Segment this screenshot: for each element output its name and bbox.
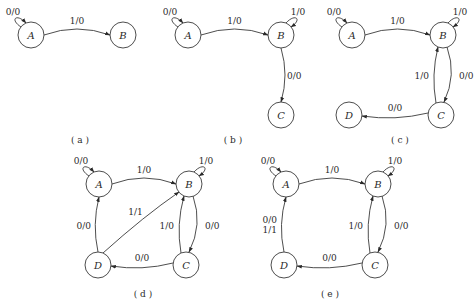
diagram-caption: ( e )	[321, 289, 339, 299]
transition-c-d-arrow	[362, 113, 428, 118]
transition-a-a-label: 0/0	[163, 7, 178, 17]
transition-a-b-arrow	[112, 178, 176, 184]
diagram-caption: ( c )	[391, 135, 409, 145]
transition-d-a-arrow	[95, 197, 99, 252]
transition-a-b-arrow	[365, 29, 430, 35]
transition-b-c-label: 0/0	[459, 71, 474, 81]
transition-b-c-arrow	[189, 196, 197, 252]
transition-b-c-arrow	[378, 196, 386, 252]
state-c-label: C	[437, 110, 445, 121]
transition-a-a-label: 0/0	[261, 156, 276, 166]
state-b-label: B	[118, 30, 126, 41]
transition-a-a-label: 0/0	[6, 7, 21, 17]
state-a-label: A	[94, 179, 102, 190]
transition-a-b-label: 1/0	[70, 16, 85, 26]
transition-d-a-arrow	[281, 197, 286, 252]
transition-c-b-arrow	[434, 47, 438, 103]
diagram-b: 0/01/01/00/0ABC( b )	[163, 7, 306, 145]
transition-c-d-label: 0/0	[322, 253, 337, 263]
transition-b-b-label: 1/0	[199, 156, 214, 166]
transition-a-b-arrow	[44, 29, 110, 35]
transition-b-c-arrow	[444, 47, 451, 102]
state-a-label: A	[347, 30, 355, 41]
transition-b-c-label: 0/0	[287, 71, 302, 81]
transition-a-a-label: 0/0	[327, 7, 342, 17]
state-c-label: C	[182, 260, 190, 271]
transition-c-b-label: 1/0	[349, 221, 364, 231]
transition-b-b-label: 1/0	[453, 7, 468, 17]
state-c-label: C	[371, 260, 379, 271]
transition-b-c-arrow	[281, 48, 285, 102]
transition-c-d-label: 0/0	[135, 253, 150, 263]
transition-a-b-label: 1/0	[325, 165, 340, 175]
transition-b-c-label: 0/0	[205, 221, 220, 231]
transition-a-b-label: 1/0	[227, 16, 242, 26]
diagram-caption: ( b )	[224, 135, 243, 145]
diagram-e: 0/01/01/00/01/00/00/01/1ABCD( e )	[261, 156, 409, 299]
diagram-caption: ( d )	[134, 289, 153, 299]
transition-d-b-label: 1/1	[128, 207, 142, 217]
state-b-label: B	[373, 179, 381, 190]
diagram-d: 0/01/01/00/01/00/00/01/1ABCD( d )	[74, 156, 220, 299]
state-d-label: D	[344, 110, 353, 121]
state-a-label: A	[281, 179, 289, 190]
state-d-label: D	[279, 260, 288, 271]
diagram-c: 0/01/01/00/01/00/0ABCD( c )	[327, 7, 474, 145]
transition-a-b-label: 1/0	[137, 165, 152, 175]
transition-c-b-arrow	[179, 196, 184, 253]
transition-a-b-label: 1/0	[390, 16, 405, 26]
transition-c-d-arrow	[111, 263, 173, 268]
transition-c-b-label: 1/0	[160, 221, 175, 231]
state-d-label: D	[93, 260, 102, 271]
diagram-a: 0/01/0AB( a )	[6, 7, 136, 145]
transition-c-b-label: 1/0	[415, 71, 430, 81]
state-c-label: C	[277, 110, 285, 121]
state-diagrams-figure: 0/01/0AB( a )0/01/01/00/0ABC( b )0/01/01…	[0, 0, 476, 306]
transition-b-b-label: 1/0	[388, 156, 403, 166]
state-b-label: B	[276, 30, 284, 41]
transition-b-c-label: 0/0	[394, 221, 409, 231]
state-a-label: A	[183, 30, 191, 41]
transition-d-a-label: 0/0	[77, 221, 92, 231]
transition-c-d-arrow	[297, 263, 362, 268]
transition-d-a-label: 0/0	[263, 215, 278, 225]
transition-a-a-label: 0/0	[74, 156, 89, 166]
state-b-label: B	[184, 179, 192, 190]
transition-b-b-label: 1/0	[291, 7, 306, 17]
transition-d-a-label: 1/1	[263, 225, 277, 235]
state-a-label: A	[26, 30, 34, 41]
diagram-caption: ( a )	[71, 135, 89, 145]
transition-c-d-label: 0/0	[388, 103, 403, 113]
transition-c-b-arrow	[368, 196, 373, 253]
transition-a-b-arrow	[299, 178, 365, 184]
transition-a-b-arrow	[201, 29, 268, 35]
state-b-label: B	[438, 30, 446, 41]
